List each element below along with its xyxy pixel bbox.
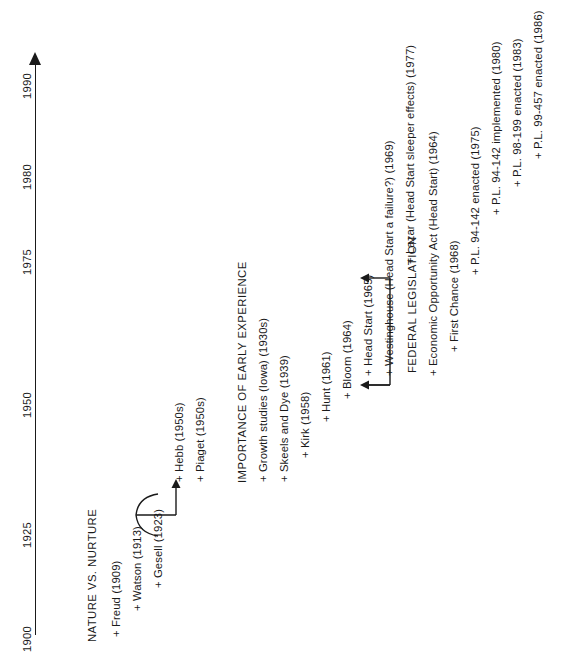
- event-pl-98-199-enacted: + P.L. 98-199 enacted (1983): [511, 38, 524, 187]
- timeline-canvas: 1900 1925 1950 1975 1980 1990 NATURE VS.…: [0, 0, 572, 663]
- event-lazar: + Lazar (Head Start sleeper effects) (19…: [404, 45, 417, 264]
- axis-tick-1975: 1975: [21, 246, 34, 278]
- event-growth-studies: + Growth studies (Iowa) (1930s): [257, 318, 270, 482]
- event-first-chance: + First Chance (1968): [448, 240, 461, 352]
- event-pl-99-457-enacted: + P.L. 99-457 enacted (1986): [532, 10, 545, 159]
- timeline-rotation-wrapper: 1900 1925 1950 1975 1980 1990 NATURE VS.…: [0, 0, 572, 663]
- section-heading-importance-of-early-experience: IMPORTANCE OF EARLY EXPERIENCE: [236, 261, 249, 483]
- event-skeels-and-dye: + Skeels and Dye (1939): [278, 355, 291, 482]
- axis-tick-1980: 1980: [21, 161, 34, 193]
- section-heading-nature-vs-nurture: NATURE VS. NURTURE: [86, 509, 99, 642]
- axis-tick-1990: 1990: [21, 70, 34, 102]
- event-watson: + Watson (1913): [131, 526, 144, 611]
- arrowhead-head-start: [360, 381, 369, 390]
- event-kirk: + Kirk (1958): [299, 392, 312, 458]
- event-economic-opportunity-act: + Economic Opportunity Act (Head Start) …: [427, 131, 440, 376]
- event-pl-94-142-enacted: + P.L. 94-142 enacted (1975): [469, 126, 482, 275]
- event-bloom: + Bloom (1964): [341, 320, 354, 399]
- timeline-axis-arrowhead: [29, 52, 41, 65]
- event-freud: + Freud (1909): [110, 561, 123, 637]
- event-hebb: + Hebb (1950s): [173, 402, 186, 482]
- event-head-start: + Head Start (1965): [362, 275, 375, 376]
- event-hunt: + Hunt (1961): [320, 351, 333, 422]
- axis-tick-1925: 1925: [21, 519, 34, 551]
- event-pl-94-142-implemented: + P.L. 94-142 implemented (1980): [490, 42, 503, 216]
- event-piaget: + Piaget (1950s): [194, 397, 207, 482]
- axis-tick-1950: 1950: [21, 389, 34, 421]
- event-gesell: + Gesell (1923): [152, 509, 165, 588]
- event-westinghouse: + Westinghouse (Head Start a failure?) (…: [383, 140, 396, 376]
- timeline-axis-line: [35, 60, 36, 635]
- axis-tick-1900: 1900: [21, 623, 34, 655]
